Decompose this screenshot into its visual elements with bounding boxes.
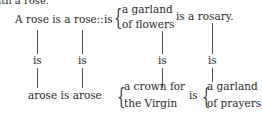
row2-brace2-bottom-text: of prayers <box>207 98 261 109</box>
connector-line <box>82 68 83 88</box>
connector-line <box>82 30 83 54</box>
row2-lead-text: arose is arose <box>28 90 102 101</box>
row2-brace2-top-text: a garland <box>207 81 258 92</box>
row1-lead-text: A rose is a rose::is <box>15 14 113 25</box>
row1-tail-text: is a rosary. <box>176 11 234 22</box>
connector-line <box>162 31 163 54</box>
top-fragment-text: ith a rose. <box>0 0 49 6</box>
connector-label: is <box>33 55 42 66</box>
connector-line <box>212 23 213 54</box>
connector-label: is <box>158 55 167 66</box>
row2-brace1-bottom-text: the Virgin <box>124 98 177 109</box>
connector-line <box>37 68 38 88</box>
connector-line <box>37 30 38 54</box>
row1-brace-bottom-text: of flowers <box>122 19 174 30</box>
row2-mid-text: is <box>189 90 198 101</box>
row1-brace-top-text: a garland <box>122 4 173 15</box>
row2-brace1-top-text: a crown for <box>124 81 185 92</box>
connector-label: is <box>78 55 87 66</box>
connector-label: is <box>208 55 217 66</box>
